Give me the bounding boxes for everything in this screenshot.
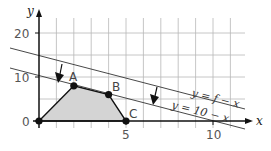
x-tick-5: 5 <box>122 128 130 142</box>
x-axis-label: x <box>256 114 263 128</box>
arrow-down-icon <box>150 87 159 105</box>
point-label-b: B <box>112 80 120 94</box>
x-axis-arrow-icon <box>245 118 253 124</box>
point-label-a: A <box>69 70 78 84</box>
x-tick-10: 10 <box>206 128 221 142</box>
y-axis-arrow-icon <box>36 9 42 17</box>
vertex-origin <box>35 117 42 124</box>
point-label-c: C <box>129 107 137 121</box>
y-axis-label: y <box>26 4 34 18</box>
linear-programming-chart: y x 20 10 0 5 10 A B C y = f − x y = 10 … <box>0 0 271 151</box>
y-tick-10: 10 <box>14 71 29 85</box>
y-tick-0: 0 <box>22 115 30 129</box>
y-tick-20: 20 <box>14 27 29 41</box>
